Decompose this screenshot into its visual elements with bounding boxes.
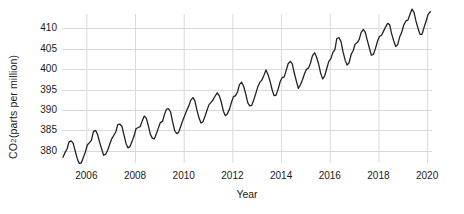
x-tick-label: 2006 xyxy=(63,171,109,181)
y-tick-label: 390 xyxy=(21,105,57,115)
co2-series-line xyxy=(63,9,430,163)
y-axis-label-subscript: 2 xyxy=(9,138,18,143)
x-tick-label: 2008 xyxy=(112,171,158,181)
x-tick-label: 2014 xyxy=(258,171,304,181)
co2-line-chart-figure: CO2 (parts per million) 3803853903954004… xyxy=(0,0,464,214)
y-axis-label-rest: (parts per million) xyxy=(7,55,19,138)
x-tick-label: 2012 xyxy=(209,171,255,181)
x-tick-label: 2018 xyxy=(355,171,401,181)
y-tick-label: 380 xyxy=(21,146,57,156)
x-tick-label: 2020 xyxy=(404,171,450,181)
x-axis-label: Year xyxy=(62,188,432,200)
y-axis-label-text: CO xyxy=(7,143,19,159)
x-tick-label: 2016 xyxy=(307,171,353,181)
y-axis-label: CO2 (parts per million) xyxy=(0,0,26,214)
plot-area xyxy=(62,14,432,163)
y-tick-label: 410 xyxy=(21,23,57,33)
x-tick-label: 2010 xyxy=(161,171,207,181)
y-tick-label: 400 xyxy=(21,64,57,74)
plot-svg xyxy=(62,14,432,163)
y-tick-label: 405 xyxy=(21,44,57,54)
y-tick-label: 395 xyxy=(21,85,57,95)
y-tick-label: 385 xyxy=(21,125,57,135)
